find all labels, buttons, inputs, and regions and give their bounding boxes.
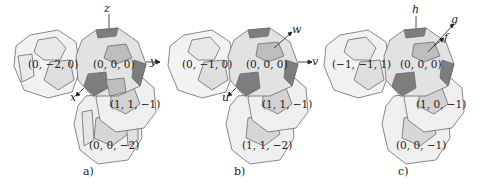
tessellation-diagram-a — [0, 0, 160, 189]
axis-label-up-right: w — [292, 24, 301, 35]
cell-label-center: (0, 0, 0) — [93, 59, 135, 70]
axis-label-up-right-near: f — [444, 32, 448, 43]
panel-caption: a) — [83, 166, 94, 177]
panel-c: h g f (−1, −1, 1) (0, 0, 0) (1, 0, −1) (… — [320, 0, 482, 189]
axis-label-right: y — [150, 56, 156, 67]
cell-label-right: (1, 1, −1) — [262, 99, 312, 110]
panel-caption: c) — [398, 166, 408, 177]
axis-label-down-left: u — [222, 92, 229, 103]
axis-label-right: v — [312, 56, 318, 67]
cell-label-left: (0, −1, 0) — [182, 59, 232, 70]
tessellation-diagram-c — [320, 0, 482, 189]
axis-label-down-left: x — [70, 92, 76, 103]
panel-a: z y x (0, −2, 0) (0, 0, 0) (1, 1, −1) (0… — [0, 0, 160, 189]
cell-label-center: (0, 0, 0) — [400, 59, 442, 70]
axis-label-up: h — [412, 4, 419, 15]
cell-label-bottom: (0, 0, −1) — [396, 140, 446, 151]
panel-b: w v u (0, −1, 0) (0, 0, 0) (1, 1, −1) (1… — [160, 0, 320, 189]
cell-label-left: (−1, −1, 1) — [332, 59, 391, 70]
panel-caption: b) — [234, 166, 245, 177]
cell-label-bottom: (0, 0, −2) — [89, 140, 139, 151]
cell-label-bottom: (1, 1, −2) — [242, 140, 292, 151]
axis-label-up: z — [104, 3, 110, 14]
cell-label-right: (1, 1, −1) — [110, 99, 160, 110]
cell-label-center: (0, 0, 0) — [246, 59, 288, 70]
cell-label-right: (1, 0, −1) — [416, 99, 466, 110]
axis-label-up-right-far: g — [451, 14, 458, 25]
cell-label-left: (0, −2, 0) — [28, 59, 78, 70]
